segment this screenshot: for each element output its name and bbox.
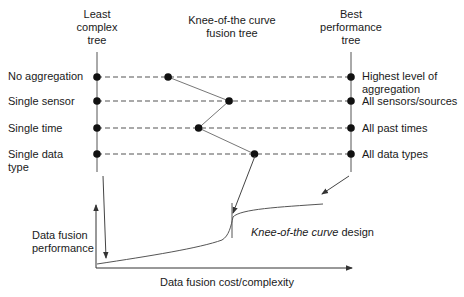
- label-line: Data fusion: [32, 229, 94, 242]
- knee-dot: [164, 73, 172, 81]
- label-line: type: [8, 161, 63, 174]
- row-left-label: No aggregation: [8, 70, 83, 83]
- left-dot: [93, 124, 101, 132]
- header-line: tree: [72, 34, 122, 47]
- left-dot: [93, 73, 101, 81]
- right-dot: [347, 150, 355, 158]
- row-right-label: Highest level of aggregation: [362, 70, 437, 96]
- header-line: Best: [318, 8, 384, 21]
- arrow-to-best: [322, 176, 349, 194]
- right-dot: [347, 124, 355, 132]
- label-line: Single data: [8, 148, 63, 161]
- row-left-label: Single data type: [8, 148, 63, 174]
- knee-tree-path: [168, 77, 254, 154]
- row-left-label: Single sensor: [8, 95, 75, 108]
- header-line: performance: [318, 21, 384, 34]
- left-dot: [93, 97, 101, 105]
- knee-dot: [225, 97, 233, 105]
- label-line: performance: [32, 242, 94, 255]
- header-line: fusion tree: [172, 27, 292, 40]
- knee-header: Knee-of-the curve fusion tree: [172, 14, 292, 40]
- row-right-label: All sensors/sources: [362, 95, 457, 108]
- row-left-label: Single time: [8, 122, 62, 135]
- annotation-rest: design: [338, 226, 373, 238]
- least-complex-header: Least complex tree: [72, 8, 122, 47]
- label-line: Highest level of: [362, 70, 437, 83]
- graph-y-label: Data fusion performance: [32, 229, 94, 255]
- knee-design-annotation: Knee-of-the curve design: [251, 226, 374, 239]
- best-performance-header: Best performance tree: [318, 8, 384, 47]
- graph-x-label: Data fusion cost/complexity: [160, 276, 294, 289]
- left-dot: [93, 150, 101, 158]
- header-line: Least: [72, 8, 122, 21]
- right-dot: [347, 73, 355, 81]
- arrow-to-least: [103, 176, 106, 258]
- header-line: tree: [318, 34, 384, 47]
- header-line: Knee-of-the curve: [172, 14, 292, 27]
- row-right-label: All past times: [362, 122, 427, 135]
- knee-dot: [195, 124, 203, 132]
- right-dot: [347, 97, 355, 105]
- arrow-to-knee: [233, 156, 255, 213]
- header-line: complex: [72, 21, 122, 34]
- row-right-label: All data types: [362, 148, 428, 161]
- annotation-italic: Knee-of-the curve: [251, 226, 338, 238]
